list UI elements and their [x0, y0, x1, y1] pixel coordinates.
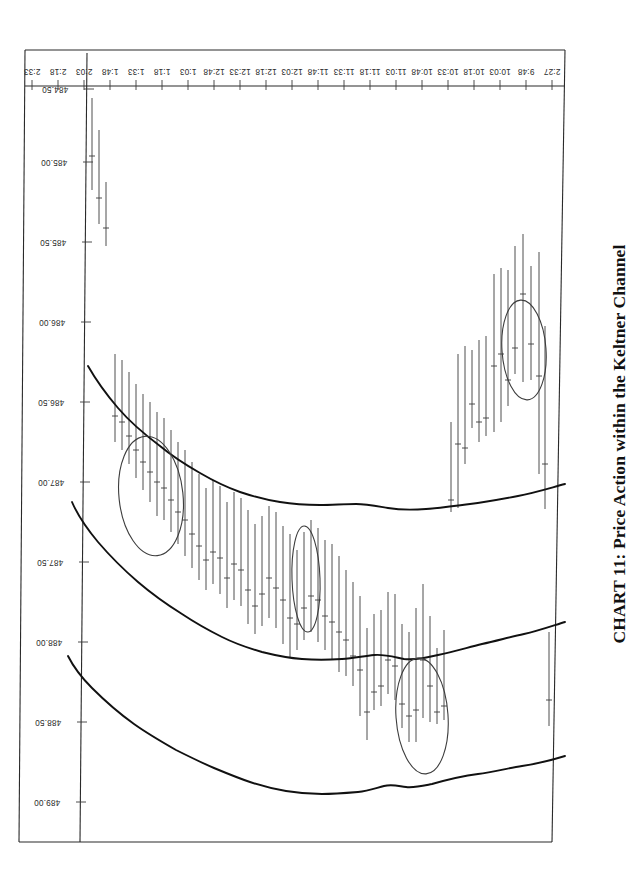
time-tick-label: 12:33	[229, 67, 251, 76]
annotation-ellipse-morning-upper-band	[392, 656, 452, 775]
time-tick-label: 10:18	[463, 67, 485, 76]
price-tick-label: 486.00	[39, 318, 65, 327]
price-axis-ticks	[76, 89, 94, 802]
figure-page: 489.00 488.50 488.00 487.50 487.00 486.5…	[0, 0, 634, 888]
chart-frame	[19, 50, 565, 842]
ohlc-bars	[89, 98, 552, 742]
rotated-figure-container: 489.00 488.50 488.00 487.50 487.00 486.5…	[0, 0, 634, 888]
keltner-upper-band	[68, 656, 565, 794]
time-tick-label: 1:03	[180, 67, 197, 76]
time-tick-label: 10:33	[437, 67, 459, 76]
time-tick-label: 10:03	[489, 67, 511, 76]
keltner-middle-line	[72, 502, 565, 660]
keltner-channel-chart	[16, 46, 576, 846]
time-tick-label: 11:33	[334, 67, 355, 76]
annotation-ellipse-open-lower-band	[499, 299, 550, 402]
time-tick-label: 12:48	[203, 67, 225, 76]
time-tick-label: 9:48	[518, 67, 535, 76]
price-tick-label: 487.50	[37, 558, 63, 567]
price-tick-label: 487.00	[38, 478, 64, 487]
time-tick-label: 11:03	[386, 67, 407, 76]
price-tick-label: 489.00	[34, 798, 60, 807]
time-tick-label: 2:27	[544, 67, 561, 76]
time-tick-label: 10:48	[411, 67, 433, 76]
time-tick-label: 2:33	[24, 67, 41, 76]
time-axis-ticks	[32, 80, 552, 90]
time-tick-label: 12:03	[281, 67, 303, 76]
plot-area: 489.00 488.50 488.00 487.50 487.00 486.5…	[16, 46, 576, 846]
price-tick-label: 485.50	[40, 238, 66, 247]
time-tick-label: 12:18	[255, 67, 277, 76]
price-tick-label: 484.50	[42, 85, 68, 94]
keltner-lower-band	[88, 366, 565, 510]
annotation-ellipse-midday-middle-line	[290, 526, 322, 633]
price-tick-label: 485.00	[41, 158, 67, 167]
price-tick-label: 488.00	[36, 638, 62, 647]
chart-figure: 489.00 488.50 488.00 487.50 487.00 486.5…	[0, 0, 634, 888]
time-tick-label: 2:03	[76, 67, 93, 76]
time-tick-label: 2:18	[50, 67, 67, 76]
price-tick-label: 488.50	[35, 718, 61, 727]
price-tick-label: 486.50	[38, 398, 64, 407]
time-tick-label: 11:18	[360, 67, 381, 76]
time-tick-label: 1:33	[128, 67, 145, 76]
figure-caption: CHART 11: Price Action within the Keltne…	[609, 0, 630, 888]
time-tick-label: 11:48	[308, 67, 329, 76]
time-tick-label: 1:48	[102, 67, 119, 76]
time-tick-label: 1:18	[154, 67, 171, 76]
